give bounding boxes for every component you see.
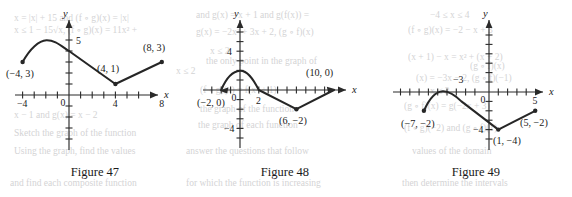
x-tick-label-5: 5 <box>533 95 538 106</box>
x-tick-label-0: 0 <box>232 92 237 103</box>
point-label-neg7-neg2: (−7, −2) <box>401 118 435 130</box>
point-label-5-neg2: (5, −2) <box>520 117 548 129</box>
figure-47-caption: Figure 47 <box>0 165 190 180</box>
y-axis-arrowhead <box>66 20 73 28</box>
figure-49: x y −3 0 5 −4 (−7, −2) (1, −4) (5, −2) F… <box>380 0 572 197</box>
x-tick-label-neg4: −4 <box>17 98 28 109</box>
figure-48-plot: x y 0 2 4 −4 (−2, 0) (6, −2) (10, 0) <box>190 0 380 160</box>
y-tick-label-neg4: −4 <box>473 124 484 135</box>
endpoint-neg4-3 <box>20 60 24 64</box>
figure-47-plot: x y −4 0 4 8 5 (−4, 3) (4, 1) (8, 3) <box>0 0 190 160</box>
figure-47-axes <box>15 20 158 150</box>
y-axis-arrowhead <box>486 20 493 28</box>
y-axis-label: y <box>482 8 488 19</box>
endpoint-5-neg2 <box>533 109 537 113</box>
y-axis-arrowhead <box>237 20 244 28</box>
point-label-8-3: (8, 3) <box>143 42 165 54</box>
y-tick-label-neg4: −4 <box>224 123 235 134</box>
figure-row: x y −4 0 4 8 5 (−4, 3) (4, 1) (8, 3) Fig… <box>0 0 572 197</box>
x-tick-label-0: 0 <box>481 94 486 105</box>
figure-49-axes <box>393 20 543 150</box>
endpoint-8-3 <box>160 60 164 64</box>
point-label-neg2-0: (−2, 0) <box>197 97 225 109</box>
vertex-6-neg2 <box>294 107 298 111</box>
vertex-1-neg4 <box>496 127 500 131</box>
x-axis-arrowhead <box>150 92 158 99</box>
x-tick-label-0: 0 <box>61 97 66 108</box>
figure-49-caption: Figure 49 <box>380 165 572 180</box>
x-tick-label-8: 8 <box>159 98 164 109</box>
x-tick-label-4: 4 <box>113 98 118 109</box>
figure-48-caption: Figure 48 <box>190 165 380 180</box>
y-axis-label: y <box>62 8 68 19</box>
figure-49-svg: x y −3 0 5 −4 (−7, −2) (1, −4) (5, −2) <box>380 0 572 160</box>
figure-48: x y 0 2 4 −4 (−2, 0) (6, −2) (10, 0) Fig… <box>190 0 380 197</box>
point-label-6-neg2: (6, −2) <box>279 115 307 127</box>
y-tick-label-4: 4 <box>227 46 232 57</box>
figure-47: x y −4 0 4 8 5 (−4, 3) (4, 1) (8, 3) Fig… <box>0 0 190 197</box>
x-axis-label: x <box>351 84 357 95</box>
y-axis-label: y <box>233 8 239 19</box>
x-axis-arrowhead <box>338 87 346 94</box>
point-label-neg4-3: (−4, 3) <box>6 68 34 80</box>
figure-47-curve <box>23 40 162 84</box>
figure-49-plot: x y −3 0 5 −4 (−7, −2) (1, −4) (5, −2) <box>380 0 572 160</box>
x-tick-label-2: 2 <box>256 95 261 106</box>
point-label-10-0: (10, 0) <box>306 67 333 79</box>
figure-47-svg: x y −4 0 4 8 5 (−4, 3) (4, 1) (8, 3) <box>0 0 190 160</box>
point-label-4-1: (4, 1) <box>97 63 119 75</box>
vertex-4-1 <box>113 82 117 86</box>
endpoint-neg7-neg2 <box>422 109 426 113</box>
figure-48-svg: x y 0 2 4 −4 (−2, 0) (6, −2) (10, 0) <box>190 0 380 160</box>
x-axis-label: x <box>548 86 554 97</box>
x-tick-label-neg3: −3 <box>453 74 464 85</box>
point-label-1-neg4: (1, −4) <box>493 135 521 147</box>
y-tick-label-5: 5 <box>76 35 81 46</box>
